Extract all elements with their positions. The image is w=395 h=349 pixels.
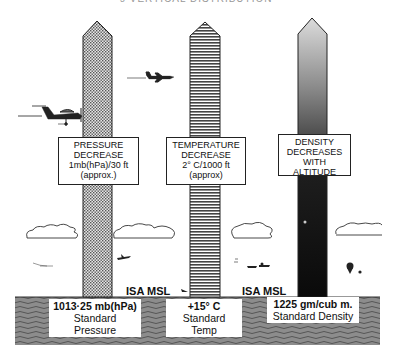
- density-standard-value: 1225 gm/cub m.: [270, 298, 356, 310]
- small-aircraft-icon: [234, 259, 270, 268]
- pressure-standard-value: 1013·25 mb(hPa): [52, 300, 138, 312]
- balloon-icon: [347, 263, 362, 275]
- light-aircraft-icon: [18, 106, 82, 125]
- small-aircraft-icon: [117, 254, 131, 260]
- temperature-standard-value: +15° C: [169, 300, 239, 312]
- distant-aircraft-icon: [33, 263, 53, 266]
- density-label-line: ALTITUDE: [280, 167, 349, 177]
- cloud-icon: [336, 223, 382, 235]
- density-label: DENSITY DECREASES WITH ALTITUDE: [278, 134, 351, 176]
- cloud-icon: [232, 222, 273, 238]
- temperature-label: TEMPERATURE DECREASE 2° C/1000 ft (appro…: [166, 137, 246, 185]
- temperature-label-line: TEMPERATURE: [168, 140, 244, 150]
- pressure-label-line: (approx.): [60, 170, 137, 180]
- cloud-icon: [27, 224, 78, 238]
- density-label-line: DECREASES: [280, 147, 349, 157]
- pressure-standard-box: 1013·25 mb(hPa) Standard Pressure: [49, 299, 141, 337]
- pressure-label: PRESSURE DECREASE 1mb(hPa)/30 ft (approx…: [58, 137, 139, 185]
- small-aircraft-icon: [181, 289, 188, 292]
- temperature-standard-box: +15° C Standard Temp: [166, 299, 242, 337]
- cloud-icon: [114, 224, 175, 238]
- density-standard-box: 1225 gm/cub m. Standard Density: [267, 297, 359, 323]
- pressure-label-line: DECREASE: [60, 150, 137, 160]
- density-label-line: DENSITY: [280, 137, 349, 147]
- pressure-label-line: PRESSURE: [60, 140, 137, 150]
- temperature-label-line: 2° C/1000 ft: [168, 160, 244, 170]
- pressure-standard-caption: Standard Pressure: [52, 312, 138, 336]
- temperature-label-line: DECREASE: [168, 150, 244, 160]
- density-label-line: WITH: [280, 157, 349, 167]
- isa-msl-label: ISA MSL: [242, 285, 286, 297]
- pressure-label-line: 1mb(hPa)/30 ft: [60, 160, 137, 170]
- isa-msl-label: ISA MSL: [126, 285, 170, 297]
- temperature-label-line: (approx): [168, 170, 244, 180]
- page-header: ɔ VERTICAL DISTRIBUTION: [120, 0, 272, 4]
- jet-aircraft-icon: [127, 72, 174, 82]
- density-standard-caption: Standard Density: [270, 310, 356, 322]
- temperature-standard-caption: Standard Temp: [169, 312, 239, 336]
